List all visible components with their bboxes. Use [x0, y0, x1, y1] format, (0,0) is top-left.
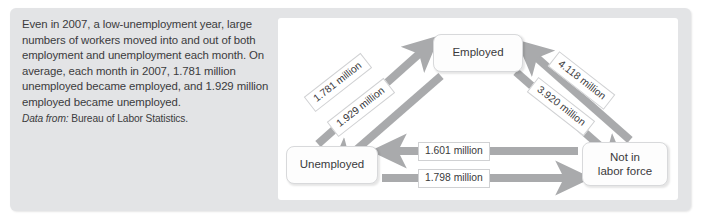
node-nilf-label: Not in labor force — [598, 150, 652, 178]
node-unemployed-label: Unemployed — [300, 158, 365, 172]
labor-flows-figure: Even in 2007, a low-unemployment year, l… — [0, 0, 710, 222]
diagram-panel: Employed Unemployed Not in labor force 1… — [278, 18, 678, 200]
node-employed-label: Employed — [452, 46, 503, 60]
source-value: Bureau of Labor Statistics. — [71, 113, 188, 124]
edge-label-nilf-to-unemployed: 1.601 million — [418, 142, 490, 161]
node-nilf-label-line1: Not in — [610, 151, 640, 163]
node-unemployed: Unemployed — [286, 146, 378, 184]
node-employed: Employed — [433, 34, 523, 72]
edge-label-unemployed-to-nilf: 1.798 million — [418, 169, 490, 188]
caption-block: Even in 2007, a low-unemployment year, l… — [22, 17, 270, 126]
source-label: Data from: — [22, 113, 69, 124]
node-nilf-label-line2: labor force — [598, 165, 652, 177]
caption-source: Data from: Bureau of Labor Statistics. — [22, 112, 270, 126]
caption-body: Even in 2007, a low-unemployment year, l… — [22, 17, 270, 111]
node-not-in-labor-force: Not in labor force — [582, 142, 668, 186]
